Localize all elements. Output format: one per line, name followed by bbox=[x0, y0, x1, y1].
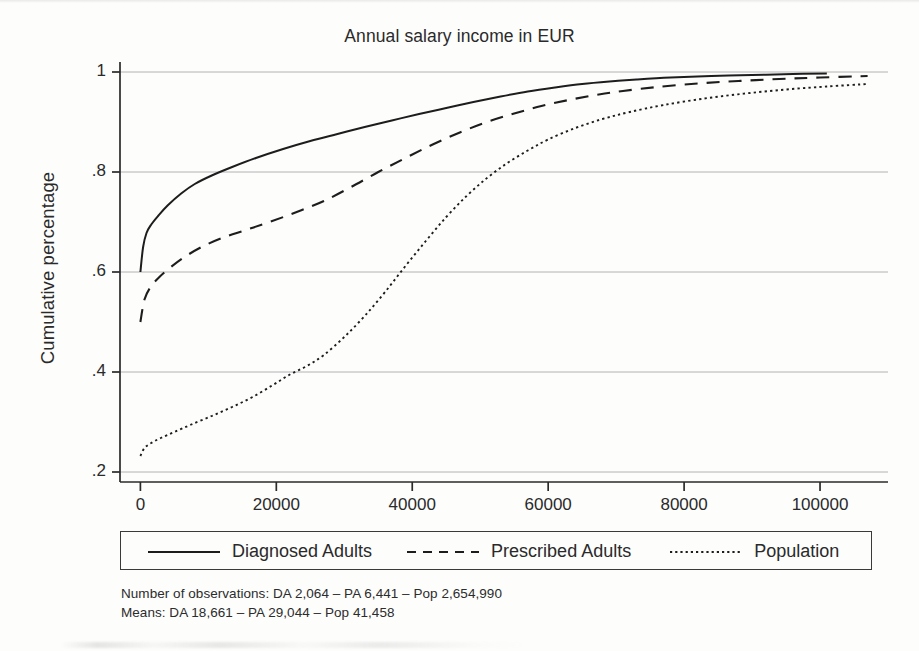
series-line-population bbox=[140, 84, 867, 456]
data-series-layer bbox=[140, 74, 867, 457]
figure-page: Annual salary income in EUR Cumulative p… bbox=[0, 0, 919, 651]
legend-key-dashed bbox=[406, 545, 480, 559]
series-line-prescribed-adults bbox=[140, 76, 867, 322]
legend-label: Prescribed Adults bbox=[480, 541, 631, 562]
x-tick-label: 60000 bbox=[525, 495, 572, 515]
y-tick-label: .2 bbox=[60, 461, 106, 481]
footnote-means: Means: DA 18,661 – PA 29,044 – Pop 41,45… bbox=[121, 605, 395, 620]
y-tick-label: .6 bbox=[60, 261, 106, 281]
legend-label: Population bbox=[743, 541, 839, 562]
x-tick-label: 80000 bbox=[660, 495, 707, 515]
legend-entry: Population bbox=[669, 532, 839, 571]
footnote-observations: Number of observations: DA 2,064 – PA 6,… bbox=[121, 586, 502, 601]
x-tick-label: 0 bbox=[136, 495, 145, 515]
legend-key-dotted bbox=[669, 545, 743, 559]
gridlines bbox=[120, 72, 888, 472]
y-tick-label: 1 bbox=[60, 61, 106, 81]
legend-entry: Prescribed Adults bbox=[406, 532, 631, 571]
y-tick-label: .8 bbox=[60, 161, 106, 181]
x-tick-label: 40000 bbox=[389, 495, 436, 515]
legend-entry: Diagnosed Adults bbox=[147, 532, 372, 571]
x-tick-label: 100000 bbox=[792, 495, 849, 515]
legend: Diagnosed AdultsPrescribed AdultsPopulat… bbox=[120, 531, 872, 570]
legend-key-solid bbox=[147, 545, 221, 559]
axis-ticks bbox=[112, 72, 820, 491]
series-line-diagnosed-adults bbox=[140, 74, 826, 273]
legend-label: Diagnosed Adults bbox=[221, 541, 372, 562]
legend-entries: Diagnosed AdultsPrescribed AdultsPopulat… bbox=[121, 532, 873, 571]
y-tick-label: .4 bbox=[60, 361, 106, 381]
x-tick-label: 20000 bbox=[253, 495, 300, 515]
